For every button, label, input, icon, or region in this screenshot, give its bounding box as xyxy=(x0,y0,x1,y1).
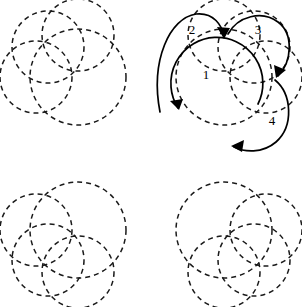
step-label-3: 3 xyxy=(255,22,262,37)
step-label-1: 1 xyxy=(203,67,210,82)
diagram-canvas: 1 2 3 4 xyxy=(0,0,302,307)
step-label-4: 4 xyxy=(269,113,276,128)
figure-background xyxy=(0,0,302,307)
step-label-2: 2 xyxy=(189,22,196,37)
clover-traversal-figure: 1 2 3 4 xyxy=(0,0,302,307)
